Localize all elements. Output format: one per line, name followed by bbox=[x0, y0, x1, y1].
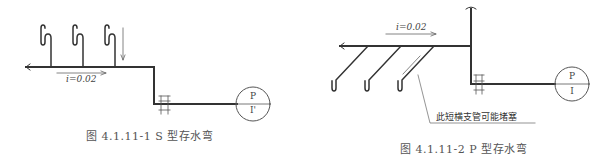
circle-bottom-label: I' bbox=[245, 105, 261, 115]
slope-label: i=0.02 bbox=[66, 74, 96, 84]
s-trap-diagram bbox=[26, 25, 270, 121]
slope-label: i=0.02 bbox=[396, 22, 426, 32]
p-trap-diagram bbox=[332, 7, 589, 123]
s-trap-1 bbox=[41, 25, 51, 66]
figure-caption: 图 4.1.11-2 P 型存水弯 bbox=[400, 140, 527, 156]
p-trap-3 bbox=[398, 46, 434, 91]
p-trap-2 bbox=[365, 46, 401, 91]
circle-top-label: P bbox=[245, 91, 261, 101]
figure-caption: 图 4.1.11-1 S 型存水弯 bbox=[86, 127, 213, 143]
p-trap-1 bbox=[332, 46, 368, 91]
s-trap-fixtures bbox=[41, 25, 115, 66]
s-trap-2 bbox=[73, 25, 83, 66]
blockage-annotation: 此短横支管可能堵塞 bbox=[436, 110, 517, 123]
s-trap-3 bbox=[105, 25, 115, 66]
p-trap-fixtures bbox=[332, 46, 434, 91]
circle-bottom-label: I bbox=[564, 86, 580, 96]
circle-top-label: P bbox=[564, 71, 580, 81]
flow-arrow bbox=[403, 56, 420, 74]
